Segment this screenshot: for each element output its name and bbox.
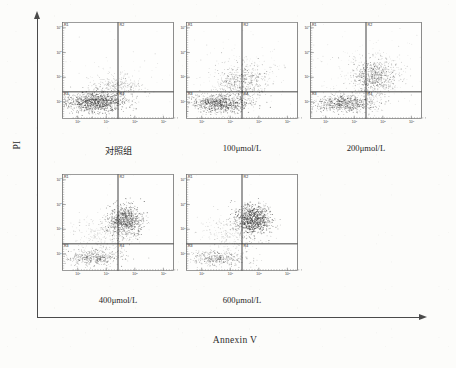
x-axis-arrow-icon	[419, 314, 427, 320]
panel-200: R1R2R3R4103102101100100101102103200μmol/…	[310, 22, 422, 119]
panel-600-x-tick-exp-0: 0	[203, 272, 205, 274]
panel-control-x-tick-exp-1: 1	[108, 120, 110, 122]
x-axis-line	[37, 317, 420, 318]
panel-600-x-tick-exp-3: 3	[289, 272, 291, 274]
panel-100-y-tick-exp-2: 1	[184, 75, 186, 77]
y-axis-arrow-icon	[34, 11, 40, 19]
panel-400-quadrant-label-r4: R4	[120, 245, 125, 249]
panel-100: R1R2R3R4103102101100100101102103100μmol/…	[186, 22, 298, 119]
y-axis-title: PI	[12, 125, 22, 165]
panel-200-x-tick-exp-2: 2	[384, 120, 386, 122]
panel-200-quadrant-label-r3: R3	[312, 93, 317, 97]
panel-100-quadrant-label-r3: R3	[188, 93, 193, 97]
panel-control-quadrant-label-r1: R1	[64, 23, 69, 27]
panel-400-y-tick-exp-3: 0	[60, 252, 62, 254]
panel-600-quadrant-label-r1: R1	[188, 175, 193, 179]
panel-200-quadrant-label-r4: R4	[368, 93, 373, 97]
panel-400: R1R2R3R4103102101100100101102103400μmol/…	[62, 174, 174, 271]
panel-400-x-tick-exp-1: 1	[108, 272, 110, 274]
panel-400-x-tick-exp-2: 2	[136, 272, 138, 274]
panel-200-y-tick-exp-3: 0	[308, 100, 310, 102]
panel-200-y-tick-exp-1: 2	[308, 50, 310, 52]
panel-400-x-tick-exp-0: 0	[79, 272, 81, 274]
panel-200-y-tick-exp-0: 3	[308, 26, 310, 28]
panel-600-x-tick-exp-2: 2	[260, 272, 262, 274]
panel-400-quadrant-label-r2: R2	[120, 175, 125, 179]
panel-200-x-tick-exp-3: 3	[413, 120, 415, 122]
panel-400-y-tick-exp-1: 2	[60, 202, 62, 204]
panel-100-y-tick-exp-1: 2	[184, 50, 186, 52]
panel-200-x-tick-exp-1: 1	[356, 120, 358, 122]
panel-100-x-tick-exp-3: 3	[289, 120, 291, 122]
panel-600-quadrant-label-r2: R2	[244, 175, 249, 179]
panel-control-y-tick-exp-0: 3	[60, 26, 62, 28]
panel-100-quadrant-label-r1: R1	[188, 23, 193, 27]
panel-200-caption: 200μmol/L	[296, 143, 436, 153]
panel-600-x-tick-exp-1: 1	[232, 272, 234, 274]
figure-root: PI Annexin V R1R2R3R41031021011001001011…	[0, 0, 456, 368]
panel-control-x-tick-exp-2: 2	[136, 120, 138, 122]
panel-600-plot: R1R2R3R4103102101100100101102103	[186, 174, 298, 271]
panel-600-y-tick-exp-0: 3	[184, 178, 186, 180]
panel-control-x-tick-exp-3: 3	[165, 120, 167, 122]
panel-100-quadrant-label-r4: R4	[244, 93, 249, 97]
panel-100-x-tick-exp-0: 0	[203, 120, 205, 122]
panel-400-y-tick-exp-0: 3	[60, 178, 62, 180]
panel-100-quadrant-label-r2: R2	[244, 23, 249, 27]
panel-control-y-tick-exp-1: 2	[60, 50, 62, 52]
panel-control-quadrant-label-r3: R3	[64, 93, 69, 97]
panel-100-caption: 100μmol/L	[172, 143, 312, 153]
panel-400-quadrant-label-r1: R1	[64, 175, 69, 179]
y-axis-line	[37, 18, 38, 318]
panel-control-quadrant-label-r2: R2	[120, 23, 125, 27]
panel-600-quadrant-label-r3: R3	[188, 245, 193, 249]
panel-control-caption: 对照组	[48, 143, 188, 157]
panel-600-y-tick-exp-2: 1	[184, 227, 186, 229]
panel-control: R1R2R3R4103102101100100101102103对照组	[62, 22, 174, 119]
panel-600-y-tick-exp-1: 2	[184, 202, 186, 204]
panel-200-quadrant-label-r1: R1	[312, 23, 317, 27]
panel-600-caption: 600μmol/L	[172, 295, 312, 305]
panel-100-y-tick-exp-3: 0	[184, 100, 186, 102]
panel-control-y-tick-exp-3: 0	[60, 100, 62, 102]
panel-400-plot: R1R2R3R4103102101100100101102103	[62, 174, 174, 271]
panel-400-caption: 400μmol/L	[48, 295, 188, 305]
panel-control-quadrant-label-r4: R4	[120, 93, 125, 97]
panel-100-x-tick-exp-1: 1	[232, 120, 234, 122]
panel-100-plot: R1R2R3R4103102101100100101102103	[186, 22, 298, 119]
x-axis-title: Annexin V	[165, 335, 305, 345]
panel-200-y-tick-exp-2: 1	[308, 75, 310, 77]
panel-100-y-tick-exp-0: 3	[184, 26, 186, 28]
panel-control-plot: R1R2R3R4103102101100100101102103	[62, 22, 174, 119]
panel-control-y-tick-exp-2: 1	[60, 75, 62, 77]
panel-control-x-tick-exp-0: 0	[79, 120, 81, 122]
panel-200-quadrant-label-r2: R2	[368, 23, 373, 27]
panel-400-x-tick-exp-3: 3	[165, 272, 167, 274]
panel-400-y-tick-exp-2: 1	[60, 227, 62, 229]
panel-200-plot: R1R2R3R4103102101100100101102103	[310, 22, 422, 119]
panel-600-quadrant-label-r4: R4	[244, 245, 249, 249]
panel-400-quadrant-label-r3: R3	[64, 245, 69, 249]
panel-600: R1R2R3R4103102101100100101102103600μmol/…	[186, 174, 298, 271]
panel-600-y-tick-exp-3: 0	[184, 252, 186, 254]
panel-200-x-tick-exp-0: 0	[327, 120, 329, 122]
panel-100-x-tick-exp-2: 2	[260, 120, 262, 122]
